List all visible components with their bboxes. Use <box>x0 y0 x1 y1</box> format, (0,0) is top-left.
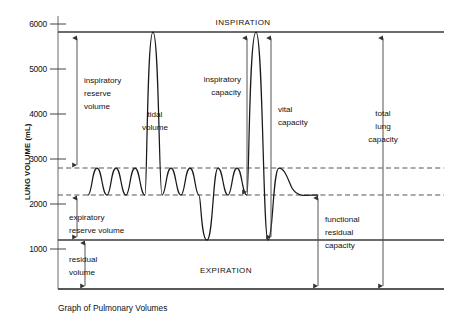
rv-label-line2: volume <box>69 268 96 277</box>
phase-label-inspiration: INSPIRATION <box>216 18 271 27</box>
spirogram-svg: 6000 5000 4000 3000 2000 1000 LUNG VOLUM… <box>0 0 453 327</box>
rv-label-line1: residual <box>69 255 98 264</box>
irv-label-line3: volume <box>84 102 111 111</box>
tidal-volume-label-line1: tidal <box>148 110 163 119</box>
measure-inspiratory-reserve-volume: inspiratory reserve volume <box>77 38 122 165</box>
measure-inspiratory-capacity: inspiratory capacity <box>204 38 247 192</box>
measure-functional-residual-capacity: functional residual capacity <box>318 198 360 286</box>
figure-caption: Graph of Pulmonary Volumes <box>58 303 167 313</box>
ic-label-line1: inspiratory <box>204 75 242 84</box>
measure-tidal-volume: tidal volume <box>142 110 169 132</box>
phase-label-expiration: EXPIRATION <box>200 266 252 275</box>
erv-label-line2: reserve volume <box>69 226 125 235</box>
vc-label-line2: capacity <box>278 118 309 127</box>
y-axis-title: LUNG VOLUME (mL) <box>23 123 32 200</box>
y-tick-label-5000: 5000 <box>29 64 47 74</box>
ic-label-line2: capacity <box>211 88 242 97</box>
y-axis: 6000 5000 4000 3000 2000 1000 <box>29 19 66 254</box>
frc-label-line3: capacity <box>325 241 356 250</box>
irv-label-line1: inspiratory <box>84 76 122 85</box>
plot-frame <box>58 16 444 289</box>
irv-label-line2: reserve <box>84 89 111 98</box>
y-tick-label-6000: 6000 <box>29 19 47 29</box>
tlc-label-line1: total <box>375 109 391 118</box>
tidal-volume-label-line2: volume <box>142 123 169 132</box>
measure-total-lung-capacity: total lung capacity <box>368 38 399 286</box>
spirogram-trace <box>88 32 318 240</box>
erv-label-line1: expiratory <box>69 213 105 222</box>
measure-residual-volume: residual volume <box>69 243 98 286</box>
measure-vital-capacity: vital capacity <box>271 38 309 237</box>
pulmonary-volumes-figure: 6000 5000 4000 3000 2000 1000 LUNG VOLUM… <box>0 0 453 327</box>
frc-label-line1: functional <box>325 215 360 224</box>
frc-label-line2: residual <box>325 228 354 237</box>
y-tick-label-1000: 1000 <box>29 244 47 254</box>
tlc-label-line2: lung <box>375 122 390 131</box>
vc-label-line1: vital <box>278 105 293 114</box>
y-tick-label-4000: 4000 <box>29 109 47 119</box>
tlc-label-line3: capacity <box>368 135 399 144</box>
measure-expiratory-reserve-volume: expiratory reserve volume <box>69 198 125 237</box>
